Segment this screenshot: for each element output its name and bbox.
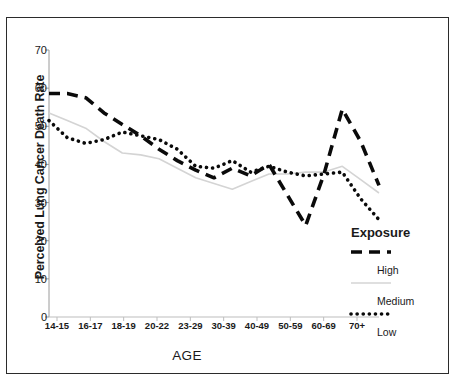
x-tick-14-15: 14-15 (45, 320, 69, 331)
x-tick-16-17: 16-17 (78, 320, 102, 331)
x-tick-50-59: 50-59 (278, 320, 302, 331)
legend-label-medium: Medium (377, 295, 414, 307)
y-tick-70: 70 (21, 44, 47, 56)
x-tick-18-19: 18-19 (112, 320, 136, 331)
x-tick-40-49: 40-49 (245, 320, 269, 331)
legend-label-low: Low (377, 326, 396, 338)
series-high (49, 94, 379, 226)
y-axis-title: Perceived Lung Cancer Death Rate (33, 67, 47, 287)
x-tick-23-29: 23-29 (178, 320, 202, 331)
legend-swatches (347, 225, 447, 340)
x-tick-30-39: 30-39 (212, 320, 236, 331)
x-tick-20-22: 20-22 (145, 320, 169, 331)
chart-legend: Exposure High Medium Low (347, 225, 447, 340)
plot-area: 706050403020100 14-1516-1718-1920-2223-2… (7, 18, 450, 375)
legend-label-high: High (377, 264, 399, 276)
x-tick-60-69: 60-69 (312, 320, 336, 331)
line-high (49, 94, 379, 226)
chart-figure: 706050403020100 14-1516-1718-1920-2223-2… (6, 17, 449, 374)
x-axis-title: AGE (7, 348, 367, 363)
